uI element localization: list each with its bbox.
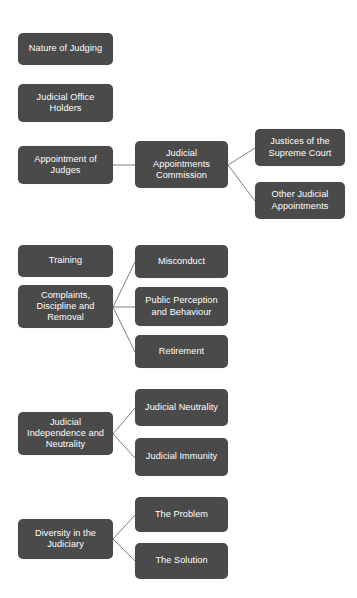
node-label: Complaints, Discipline and Removal <box>22 290 109 324</box>
node-label: Judicial Appointments Commission <box>139 148 224 182</box>
node-label: Judicial Office Holders <box>22 92 109 114</box>
node-label: Public Perception and Behaviour <box>139 295 224 317</box>
node-label: Nature of Judging <box>22 43 109 54</box>
connector-diversity-in-the-judiciary-to-the-solution <box>113 539 135 561</box>
node-label: Judicial Immunity <box>139 451 224 462</box>
node-judicial-immunity[interactable]: Judicial Immunity <box>135 438 228 476</box>
node-judicial-office-holders[interactable]: Judicial Office Holders <box>18 84 113 122</box>
node-judicial-independence-and-neutrality[interactable]: Judicial Independence and Neutrality <box>18 412 113 455</box>
node-public-perception-and-behaviour[interactable]: Public Perception and Behaviour <box>135 287 228 326</box>
node-label: Justices of the Supreme Court <box>259 136 341 158</box>
node-label: Misconduct <box>139 256 224 267</box>
node-training[interactable]: Training <box>18 245 113 277</box>
node-misconduct[interactable]: Misconduct <box>135 245 228 278</box>
node-label: Appointment of Judges <box>22 154 109 176</box>
connector-diversity-in-the-judiciary-to-the-problem <box>113 515 135 539</box>
node-complaints-discipline-and-removal[interactable]: Complaints, Discipline and Removal <box>18 285 113 328</box>
connector-judicial-independence-and-neutrality-to-judicial-neutrality <box>113 408 135 434</box>
node-label: The Problem <box>139 509 224 520</box>
node-nature-of-judging[interactable]: Nature of Judging <box>18 33 113 65</box>
node-label: Judicial Neutrality <box>139 402 224 413</box>
node-the-solution[interactable]: The Solution <box>135 543 228 579</box>
node-label: Training <box>22 255 109 266</box>
node-label: Retirement <box>139 346 224 357</box>
connector-judicial-appointments-commission-to-other-judicial-appointments <box>228 165 255 201</box>
node-judicial-appointments-commission[interactable]: Judicial Appointments Commission <box>135 141 228 188</box>
node-label: Diversity in the Judiciary <box>22 528 109 550</box>
node-label: The Solution <box>139 555 224 566</box>
connector-judicial-independence-and-neutrality-to-judicial-immunity <box>113 434 135 458</box>
node-label: Other Judicial Appointments <box>259 189 341 211</box>
connector-judicial-appointments-commission-to-justices-of-the-supreme-court <box>228 148 255 165</box>
connector-complaints-discipline-and-removal-to-misconduct <box>113 262 135 307</box>
node-other-judicial-appointments[interactable]: Other Judicial Appointments <box>255 182 345 219</box>
judiciary-hierarchy-diagram: Nature of JudgingJudicial Office Holders… <box>0 0 357 598</box>
node-retirement[interactable]: Retirement <box>135 335 228 368</box>
node-diversity-in-the-judiciary[interactable]: Diversity in the Judiciary <box>18 519 113 559</box>
node-label: Judicial Independence and Neutrality <box>22 417 109 451</box>
node-the-problem[interactable]: The Problem <box>135 497 228 532</box>
connector-complaints-discipline-and-removal-to-retirement <box>113 307 135 352</box>
node-appointment-of-judges[interactable]: Appointment of Judges <box>18 146 113 184</box>
node-justices-of-the-supreme-court[interactable]: Justices of the Supreme Court <box>255 129 345 166</box>
node-judicial-neutrality[interactable]: Judicial Neutrality <box>135 389 228 426</box>
